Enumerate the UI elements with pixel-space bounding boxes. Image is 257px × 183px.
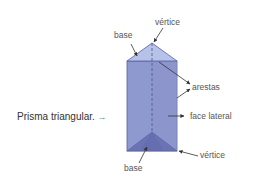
arrow-base-top — [131, 44, 137, 56]
label-edges: arestas — [192, 83, 220, 92]
label-lateral-face: face lateral — [190, 112, 232, 121]
arrow-vertex-bottom — [179, 151, 198, 156]
label-base-bottom: base — [124, 164, 142, 173]
arrow-edge-2 — [177, 89, 190, 98]
caption-text: Prisma triangular. — [17, 111, 95, 122]
figure-caption: Prisma triangular. → — [17, 112, 107, 122]
arrow-right-icon: → — [98, 112, 107, 122]
arrow-vertex-top — [154, 28, 163, 42]
label-vertex-bottom: vértice — [200, 151, 225, 160]
label-base-top: base — [114, 31, 132, 40]
label-vertex-top: vértice — [155, 18, 180, 27]
